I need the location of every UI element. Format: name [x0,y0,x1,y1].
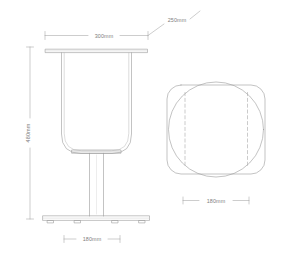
dimension-label-plan-width: 180mm [207,198,226,204]
base-feet [48,221,146,223]
seat-shell-inner [64,53,129,151]
seat-shell-outer [62,53,132,154]
dimension-label-overall-height: 480mm [25,123,31,142]
dimension-label-base-width: 180mm [83,236,102,242]
plan-circle [169,82,264,177]
elevation-view [43,49,150,223]
dimension-label-depth: 250mm [168,17,187,23]
seat-top-plate [46,49,148,52]
dimension-depth-leader [148,11,200,36]
drawing-canvas: 300mm 250mm 480mm 180mm 180mm [0,0,281,258]
central-column [90,153,104,216]
base-plate [43,216,150,221]
plan-view [167,82,265,177]
dimension-label-top-width: 300mm [95,33,114,39]
technical-drawing-svg: 300mm 250mm 480mm 180mm 180mm [0,0,281,258]
plan-rounded-square [167,85,265,174]
